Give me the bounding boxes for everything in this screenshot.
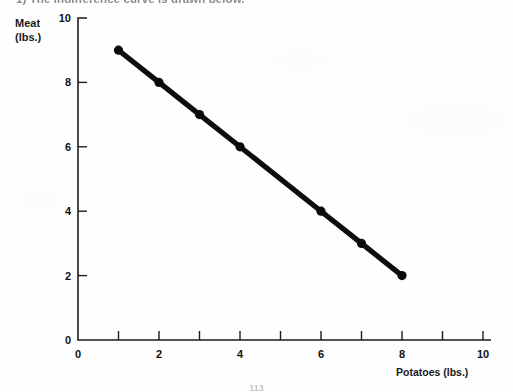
- y-tick-label-8: 8: [65, 76, 71, 88]
- data-point: [316, 207, 325, 216]
- x-tick-label-0: 0: [75, 348, 81, 360]
- data-point: [357, 239, 366, 248]
- data-point: [154, 78, 163, 87]
- chart-plot: 0246810 0246810: [0, 0, 513, 392]
- data-point: [114, 46, 123, 55]
- y-tick-label-2: 2: [65, 270, 71, 282]
- x-tick-label-8: 8: [399, 348, 405, 360]
- page-number: 113: [0, 383, 513, 392]
- data-series-group: [114, 46, 407, 281]
- x-tick-label-4: 4: [237, 348, 244, 360]
- scanned-chart-page: 1) The indifference curve is drawn below…: [0, 0, 513, 392]
- x-tick-label-2: 2: [156, 348, 162, 360]
- data-point: [235, 142, 244, 151]
- y-tick-label-4: 4: [65, 205, 72, 217]
- data-point: [195, 110, 204, 119]
- x-tick-label-6: 6: [318, 348, 324, 360]
- x-axis-ticks: 0246810: [75, 331, 489, 360]
- y-tick-label-10: 10: [59, 12, 71, 24]
- x-tick-label-10: 10: [477, 348, 489, 360]
- y-axis-ticks: 0246810: [59, 12, 87, 346]
- y-tick-label-6: 6: [65, 141, 71, 153]
- data-point: [397, 271, 406, 280]
- y-tick-label-0: 0: [65, 334, 71, 346]
